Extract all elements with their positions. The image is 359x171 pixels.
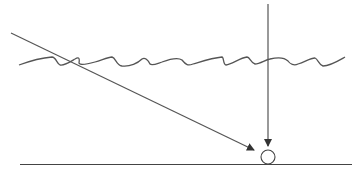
target-circle (261, 150, 275, 164)
diagonal-ray-arrow (11, 33, 254, 150)
diagram-canvas (0, 0, 359, 171)
wave-surface-line (19, 57, 345, 66)
